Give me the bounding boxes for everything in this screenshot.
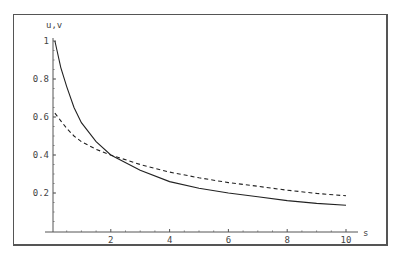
series-u-line — [55, 41, 346, 205]
y-tick-label: 0.6 — [33, 112, 49, 122]
y-tick-label: 0.2 — [33, 188, 49, 198]
line-chart: 2468100.20.40.60.81su,v — [0, 0, 399, 259]
y-tick-label: 1 — [44, 36, 49, 46]
x-tick-label: 2 — [108, 235, 113, 245]
series-v-line — [55, 113, 346, 196]
y-tick-label: 0.4 — [33, 150, 49, 160]
x-tick-label: 6 — [226, 235, 231, 245]
x-axis-label: s — [363, 228, 368, 238]
y-axis-label: u,v — [46, 20, 62, 30]
y-tick-label: 0.8 — [33, 74, 49, 84]
x-tick-label: 8 — [284, 235, 289, 245]
x-tick-label: 10 — [341, 235, 352, 245]
x-tick-label: 4 — [167, 235, 172, 245]
